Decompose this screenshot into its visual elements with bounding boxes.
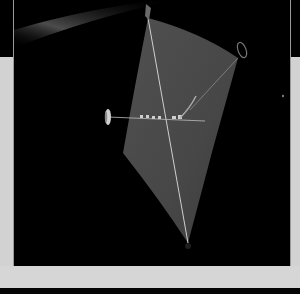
sail-tip-bottom <box>185 243 191 249</box>
sail-membrane <box>123 18 238 243</box>
caption-text <box>30 272 290 282</box>
sail-tip-top <box>145 4 151 20</box>
solar-sail-illustration <box>0 0 300 266</box>
star <box>282 95 284 97</box>
sail-tip-right <box>236 41 249 59</box>
caption-strip <box>0 266 300 288</box>
bottom-margin <box>0 288 300 294</box>
